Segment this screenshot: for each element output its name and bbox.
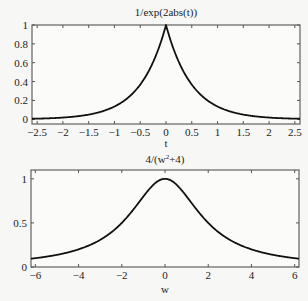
chart-title: 4/(w2+4) [145,153,184,166]
x-tick-label: 0 [162,269,168,281]
y-tick-label: 0.2 [14,94,28,106]
x-tick-label: −2.5 [27,126,47,138]
x-tick-label: −0.5 [130,126,150,138]
y-tick-label: 1 [22,173,28,185]
y-tick-label: 0.8 [14,38,28,50]
x-tick-label: 2.5 [288,126,302,138]
x-tick-label: −2 [116,269,128,281]
figure: −2.5−2−1.5−1−0.500.511.522.500.20.40.60.… [0,0,308,301]
y-tick-label: 1 [23,19,29,31]
x-tick-label: 2 [266,126,272,138]
x-tick-label: −1.5 [79,126,99,138]
x-tick-label: −2 [57,126,69,138]
y-tick-label: 0.6 [14,57,28,69]
subplot-frequency-domain: −6−4−2024600.514/(w2+4)w [13,153,299,295]
x-tick-label: 1.5 [236,126,250,138]
x-axis-label: t [164,137,167,149]
y-tick-label: 0 [23,113,29,125]
y-tick-label: 0 [22,261,28,273]
x-tick-label: −1 [109,126,121,138]
x-tick-label: 6 [292,269,298,281]
x-tick-label: 2 [205,269,211,281]
subplot-time-domain: −2.5−2−1.5−1−0.500.511.522.500.20.40.60.… [14,6,302,149]
chart-title: 1/exp(2abs(t)) [135,6,198,19]
x-axis-label: w [161,283,169,295]
y-tick-label: 0.5 [13,217,27,229]
x-tick-label: −6 [29,269,41,281]
plot-frame [32,25,300,124]
y-tick-label: 0.4 [14,76,28,88]
x-tick-label: 0.5 [185,126,199,138]
x-tick-label: 1 [215,126,221,138]
x-tick-label: 4 [249,269,255,281]
x-tick-label: −4 [73,269,85,281]
